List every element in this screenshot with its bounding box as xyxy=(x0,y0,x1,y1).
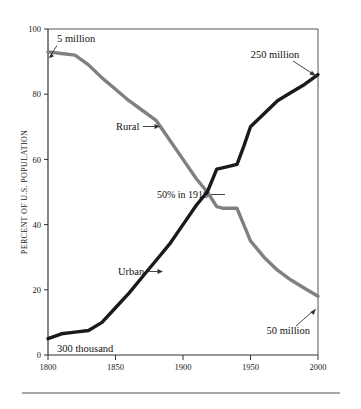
annotation-end-rural-label: 50 million xyxy=(267,325,311,336)
series-label-urban-text: Urban xyxy=(118,266,145,277)
x-axis-tick-labels: 1800 1850 1900 1950 2000 xyxy=(40,362,327,372)
line-chart-svg: 0 20 40 60 80 100 1800 1850 1900 1950 20… xyxy=(0,0,361,409)
annotation-end-urban: 250 million xyxy=(251,49,316,76)
annotation-start-urban-label: 300 thousand xyxy=(57,343,114,354)
x-tick-2000: 2000 xyxy=(310,362,327,372)
x-axis-ticks xyxy=(48,355,318,360)
series-label-rural-text: Rural xyxy=(116,121,139,132)
annotation-end-urban-label: 250 million xyxy=(251,49,300,60)
annotation-end-rural: 50 million xyxy=(267,309,316,337)
series-line-rural xyxy=(48,52,318,297)
y-axis-title: PERCENT OF U.S. POPULATION xyxy=(20,130,29,254)
x-tick-1950: 1950 xyxy=(242,362,259,372)
y-tick-80: 80 xyxy=(33,89,42,99)
y-tick-60: 60 xyxy=(33,155,42,165)
annotation-crossover: 50% in 1918 xyxy=(157,189,225,200)
x-tick-1850: 1850 xyxy=(107,362,124,372)
y-tick-20: 20 xyxy=(33,285,42,295)
x-tick-1800: 1800 xyxy=(40,362,57,372)
x-tick-1900: 1900 xyxy=(175,362,192,372)
series-label-urban: Urban xyxy=(118,266,163,277)
series-label-rural: Rural xyxy=(116,121,160,132)
annotation-crossover-label: 50% in 1918 xyxy=(157,189,208,200)
y-tick-40: 40 xyxy=(33,220,42,230)
series-line-urban xyxy=(48,75,318,339)
y-axis-tick-labels: 0 20 40 60 80 100 xyxy=(28,24,41,360)
y-tick-0: 0 xyxy=(37,350,41,360)
chart-figure: 0 20 40 60 80 100 1800 1850 1900 1950 20… xyxy=(0,0,361,409)
y-tick-100: 100 xyxy=(28,24,41,34)
annotation-start-rural-label: 5 million xyxy=(57,33,96,44)
annotation-start-urban: 300 thousand xyxy=(57,343,114,354)
